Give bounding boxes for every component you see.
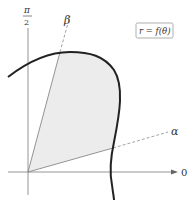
polar-axis-arrow-icon (171, 170, 178, 175)
ray-alpha-dashed (113, 132, 168, 148)
equation-label: r = f(θ) (139, 26, 171, 36)
alpha-label: α (171, 125, 179, 138)
beta-label: β (63, 14, 70, 27)
zero-label: 0 (181, 167, 187, 178)
pi-label: π (23, 5, 31, 15)
shaded-region (28, 51, 119, 172)
polar-diagram: π 2 β α 0 r = f(θ) (0, 0, 196, 206)
two-label: 2 (24, 18, 29, 27)
